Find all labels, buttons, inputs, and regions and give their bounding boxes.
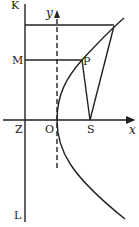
label-S: S: [87, 123, 95, 136]
parabola-upper-branch: [57, 18, 124, 120]
ps-line: [82, 60, 90, 120]
label-Z: Z: [15, 123, 23, 136]
focal-chord-line: [90, 26, 114, 120]
parabola-diagram: K y M P Z O S x L: [0, 0, 139, 227]
label-M: M: [12, 54, 23, 67]
label-P: P: [83, 55, 91, 68]
label-L: L: [14, 209, 22, 222]
label-O: O: [45, 123, 54, 136]
label-x: x: [129, 123, 136, 137]
label-y: y: [45, 6, 53, 20]
label-K: K: [11, 0, 20, 12]
y-axis-arrow-icon: [54, 10, 60, 18]
